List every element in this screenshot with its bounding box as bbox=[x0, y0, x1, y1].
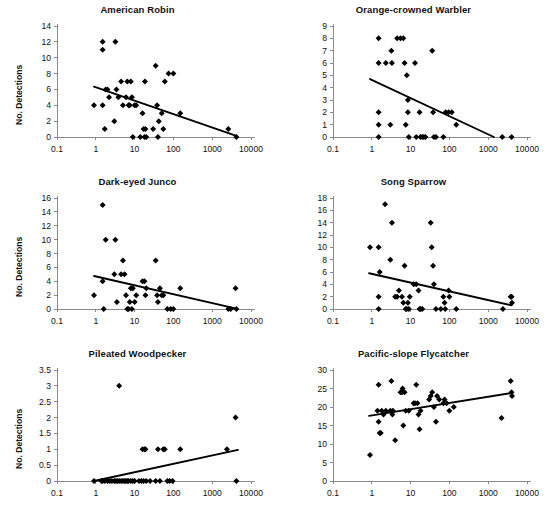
y-tick-label: 6 bbox=[322, 267, 327, 277]
y-tick-label: 8 bbox=[322, 33, 327, 43]
x-tick-label: 100 bbox=[166, 488, 181, 498]
y-tick-label: 14 bbox=[41, 207, 51, 217]
y-tick-label: 10 bbox=[317, 242, 327, 252]
data-point bbox=[142, 292, 148, 298]
x-tick-label: 100 bbox=[442, 144, 457, 154]
scatter-plot: 01234567890.1110100100010000 bbox=[276, 0, 551, 169]
data-point-group bbox=[367, 378, 515, 458]
y-tick-label: 0 bbox=[322, 304, 327, 314]
scatter-plot: 00.511.522.533.50.1110100100010000 bbox=[0, 344, 275, 507]
y-tick-label: 3 bbox=[322, 95, 327, 105]
data-point bbox=[407, 294, 413, 300]
data-point-group bbox=[91, 202, 239, 312]
data-point bbox=[102, 126, 108, 132]
data-point bbox=[417, 109, 423, 115]
x-tick-label: 1 bbox=[93, 316, 98, 326]
regression-trendline bbox=[94, 276, 236, 309]
data-point bbox=[453, 306, 459, 312]
x-tick-label: 1 bbox=[93, 144, 98, 154]
regression-trendline bbox=[370, 79, 494, 137]
x-tick-label: 100 bbox=[166, 144, 181, 154]
x-tick-label: 10 bbox=[130, 144, 140, 154]
data-point bbox=[100, 102, 106, 108]
data-point bbox=[142, 79, 148, 85]
panel-orange-crowned-warbler: Orange-crowned Warbler01234567890.111010… bbox=[276, 0, 551, 169]
y-tick-label: 6 bbox=[322, 58, 327, 68]
data-point bbox=[509, 134, 515, 140]
y-tick-label: 18 bbox=[317, 193, 327, 203]
data-point bbox=[170, 71, 176, 77]
y-tick-label: 2 bbox=[322, 107, 327, 117]
data-point bbox=[402, 60, 408, 66]
y-tick-label: 2 bbox=[322, 292, 327, 302]
regression-trendline bbox=[369, 273, 511, 305]
data-point bbox=[382, 201, 388, 207]
data-point bbox=[376, 122, 382, 128]
scatter-plot: 0510152025300.1110100100010000 bbox=[276, 344, 551, 507]
y-tick-label: 0 bbox=[46, 132, 51, 142]
y-tick-label: 16 bbox=[41, 193, 51, 203]
y-tick-label: 14 bbox=[317, 218, 327, 228]
data-point bbox=[101, 306, 107, 312]
data-point bbox=[509, 294, 515, 300]
data-point bbox=[91, 102, 97, 108]
data-point bbox=[383, 60, 389, 66]
panel-pacific-slope-flycatcher: Pacific-slope Flycatcher0510152025300.11… bbox=[276, 344, 551, 507]
data-point bbox=[376, 60, 382, 66]
x-tick-label: 1000 bbox=[479, 144, 498, 154]
y-tick-label: 14 bbox=[41, 21, 51, 31]
data-point bbox=[392, 437, 398, 443]
data-point bbox=[442, 306, 448, 312]
data-point bbox=[153, 63, 159, 69]
data-point bbox=[387, 257, 393, 263]
data-point bbox=[403, 122, 409, 128]
y-tick-label: 0 bbox=[46, 476, 51, 486]
y-tick-label: 1.5 bbox=[39, 428, 51, 438]
data-point bbox=[143, 285, 149, 291]
data-point bbox=[387, 122, 393, 128]
y-tick-label: 1 bbox=[322, 120, 327, 130]
data-point bbox=[147, 478, 153, 484]
data-point bbox=[442, 300, 448, 306]
data-point bbox=[404, 72, 410, 78]
data-point bbox=[156, 118, 162, 124]
data-point bbox=[388, 48, 394, 54]
y-tick-label: 2 bbox=[46, 290, 51, 300]
data-point bbox=[376, 35, 382, 41]
data-point-group bbox=[367, 201, 515, 312]
y-tick-label: 5 bbox=[322, 70, 327, 80]
data-point bbox=[367, 452, 373, 458]
x-tick-label: 1 bbox=[369, 488, 374, 498]
data-point bbox=[440, 134, 446, 140]
x-tick-label: 1000 bbox=[203, 144, 222, 154]
y-tick-label: 8 bbox=[46, 69, 51, 79]
data-point bbox=[396, 288, 402, 294]
data-point bbox=[429, 244, 435, 250]
y-tick-label: 3 bbox=[46, 381, 51, 391]
data-point bbox=[453, 122, 459, 128]
x-tick-label: 1000 bbox=[479, 316, 498, 326]
data-point bbox=[140, 110, 146, 116]
y-tick-label: 2 bbox=[46, 116, 51, 126]
y-tick-label: 0 bbox=[322, 132, 327, 142]
y-tick-label: 0.5 bbox=[39, 460, 51, 470]
data-point bbox=[111, 271, 117, 277]
y-tick-label: 4 bbox=[322, 279, 327, 289]
data-point-group bbox=[376, 35, 515, 140]
data-point bbox=[429, 48, 435, 54]
data-point bbox=[405, 109, 411, 115]
x-tick-label: 10 bbox=[130, 488, 140, 498]
data-point bbox=[233, 285, 239, 291]
x-tick-label: 1 bbox=[93, 488, 98, 498]
data-point bbox=[500, 306, 506, 312]
data-point bbox=[100, 202, 106, 208]
x-tick-label: 0.1 bbox=[51, 144, 63, 154]
y-tick-label: 16 bbox=[317, 205, 327, 215]
x-tick-label: 1000 bbox=[203, 316, 222, 326]
x-tick-label: 10000 bbox=[515, 316, 539, 326]
data-point bbox=[118, 79, 124, 85]
y-tick-label: 4 bbox=[46, 276, 51, 286]
data-point bbox=[153, 257, 159, 263]
data-point bbox=[133, 292, 139, 298]
data-point bbox=[376, 419, 382, 425]
